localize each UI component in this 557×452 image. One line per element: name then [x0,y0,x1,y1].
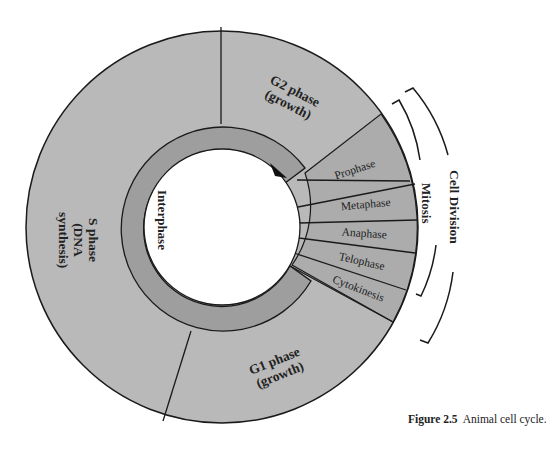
mitosis-label: Mitosis [419,183,434,223]
svg-text:synthesis): synthesis) [56,212,71,268]
cell-division-label: Cell Division [447,170,462,244]
interphase-ring [121,127,311,331]
figure-number: Figure 2.5 [408,413,458,425]
svg-text:S phase: S phase [86,218,101,262]
svg-text:(DNA: (DNA [71,223,86,257]
figure-caption-text: Animal cell cycle. [463,413,547,425]
cell-cycle-diagram: Interphase G2 phase (growth) S phase (DN… [0,0,557,452]
figure-caption: Figure 2.5Animal cell cycle. [408,413,547,425]
interphase-label: Interphase [155,190,170,250]
